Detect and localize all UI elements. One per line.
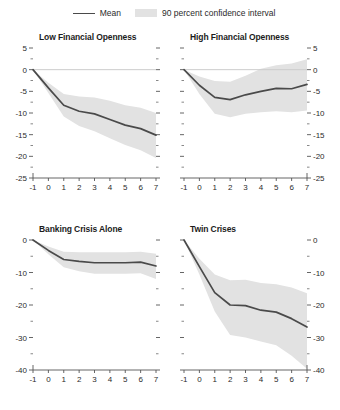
x-tick-label: 2	[77, 375, 82, 384]
x-tick-label: 6	[289, 183, 294, 192]
x-tick-label: 3	[243, 375, 248, 384]
x-tick-label: 1	[213, 183, 218, 192]
legend-label-mean: Mean	[100, 8, 121, 18]
x-tick-label: 5	[274, 183, 279, 192]
plot-area: -10123456750-5-10-15-20-25	[170, 26, 340, 218]
y-tick-label: -10	[313, 269, 325, 278]
panel-title: High Financial Openness	[190, 32, 289, 42]
x-tick-label: 5	[123, 375, 128, 384]
y-tick-label: -30	[313, 334, 325, 343]
x-tick-label: 0	[46, 375, 51, 384]
x-tick-label: 0	[197, 375, 202, 384]
x-tick-label: 5	[123, 183, 128, 192]
x-tick-label: 4	[259, 375, 264, 384]
y-tick-label: -40	[313, 366, 325, 375]
x-tick-label: 4	[259, 183, 264, 192]
x-tick-label: 3	[92, 183, 97, 192]
y-tick-label: -40	[15, 366, 27, 375]
y-tick-label: -25	[313, 174, 325, 183]
x-tick-label: 1	[213, 375, 218, 384]
y-tick-label: 0	[23, 66, 28, 75]
x-tick-label: -1	[180, 183, 188, 192]
x-tick-label: 6	[138, 375, 143, 384]
panel-high-financial-openness: High Financial Openness -10123456750-5-1…	[170, 26, 340, 218]
panel-grid: Low Financial Openness -10123456750-5-10…	[0, 26, 340, 410]
confidence-band	[33, 240, 156, 279]
legend-line-swatch	[73, 13, 95, 14]
y-tick-label: -20	[15, 301, 27, 310]
x-tick-label: -1	[29, 183, 37, 192]
y-tick-label: 5	[313, 44, 318, 53]
x-tick-label: 4	[108, 375, 113, 384]
panel-low-financial-openness: Low Financial Openness -10123456750-5-10…	[0, 26, 170, 218]
y-tick-label: 0	[313, 66, 318, 75]
y-tick-label: -15	[15, 131, 27, 140]
x-tick-label: 7	[154, 183, 159, 192]
panel-title: Twin Crises	[190, 224, 236, 234]
x-tick-label: 3	[243, 183, 248, 192]
plot-area: -10123456750-5-10-15-20-25	[0, 26, 170, 218]
figure-root: Mean 90 percent confidence interval Low …	[0, 0, 340, 410]
x-tick-label: 5	[274, 375, 279, 384]
x-tick-label: 0	[197, 183, 202, 192]
panel-twin-crises: Twin Crises -1012345670-10-20-30-40	[170, 218, 340, 410]
plot-area: -1012345670-10-20-30-40	[170, 218, 340, 410]
y-tick-label: -20	[15, 152, 27, 161]
x-tick-label: 7	[154, 375, 159, 384]
x-tick-label: 1	[62, 375, 67, 384]
x-tick-label: 2	[77, 183, 82, 192]
confidence-band	[184, 240, 307, 369]
x-tick-label: 7	[305, 375, 310, 384]
y-tick-label: 0	[23, 236, 28, 245]
x-tick-label: 7	[305, 183, 310, 192]
chart-legend: Mean 90 percent confidence interval	[0, 0, 340, 26]
x-tick-label: 2	[228, 183, 233, 192]
x-tick-label: 2	[228, 375, 233, 384]
plot-area: -1012345670-10-20-30-40	[0, 218, 170, 410]
x-tick-label: 4	[108, 183, 113, 192]
panel-title: Low Financial Openness	[39, 32, 136, 42]
x-tick-label: 1	[62, 183, 67, 192]
x-tick-label: 0	[46, 183, 51, 192]
y-tick-label: -15	[313, 131, 325, 140]
x-tick-label: 6	[138, 183, 143, 192]
legend-item-mean: Mean	[73, 8, 121, 18]
y-tick-label: -25	[15, 174, 27, 183]
y-tick-label: -20	[313, 301, 325, 310]
legend-label-confidence-interval: 90 percent confidence interval	[162, 8, 275, 18]
x-tick-label: 6	[289, 375, 294, 384]
x-tick-label: 3	[92, 375, 97, 384]
panel-banking-crisis-alone: Banking Crisis Alone -1012345670-10-20-3…	[0, 218, 170, 410]
x-tick-label: -1	[29, 375, 37, 384]
y-tick-label: -10	[15, 109, 27, 118]
legend-band-swatch	[135, 9, 157, 17]
panel-title: Banking Crisis Alone	[39, 224, 122, 234]
y-tick-label: -10	[15, 269, 27, 278]
y-tick-label: -5	[20, 87, 28, 96]
y-tick-label: -20	[313, 152, 325, 161]
y-tick-label: -5	[313, 87, 321, 96]
y-tick-label: -30	[15, 334, 27, 343]
y-tick-label: 0	[313, 236, 318, 245]
y-tick-label: 5	[23, 44, 28, 53]
x-tick-label: -1	[180, 375, 188, 384]
legend-item-confidence-interval: 90 percent confidence interval	[135, 8, 275, 18]
y-tick-label: -10	[313, 109, 325, 118]
